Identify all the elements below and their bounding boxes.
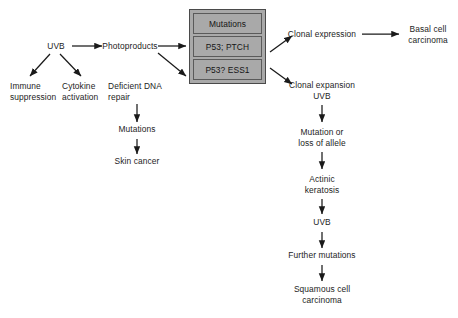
mutation-box-header: Mutations — [193, 13, 262, 34]
node-uvb-source: UVB — [47, 41, 65, 52]
node-cytokine-activation: Cytokine activation — [62, 81, 98, 102]
arrow-photoproducts-to-p53-ess1 — [158, 53, 186, 76]
node-skin-cancer: Skin cancer — [115, 156, 160, 167]
node-immune-suppression: Immune suppression — [10, 81, 56, 102]
arrow-uvb-to-cytokine-activation — [60, 54, 81, 76]
node-mutations-left: Mutations — [118, 124, 155, 135]
node-mutation-or-loss-of-allele: Mutation or loss of allele — [298, 127, 346, 148]
node-deficient-dna-repair: Deficient DNA repair — [108, 81, 162, 102]
mutation-box-row-p53-ptch: P53; PTCH — [193, 36, 262, 57]
node-clonal-expansion-uvb: Clonal expansion UVB — [289, 80, 355, 101]
node-squamous-cell-carcinoma: Squamous cell carcinoma — [294, 284, 350, 305]
node-photoproducts: Photoproducts — [102, 41, 157, 52]
node-basal-cell-carcinoma: Basal cell carcinoma — [408, 24, 448, 45]
arrow-uvb-to-immune-suppression — [30, 54, 50, 76]
diagram-canvas: UVB Photoproducts Immune suppression Cyt… — [0, 0, 458, 318]
node-further-mutations: Further mutations — [288, 250, 355, 261]
node-clonal-expression: Clonal expression — [288, 29, 356, 40]
mutation-box: Mutations P53; PTCH P53? ESS1 — [189, 9, 266, 84]
node-uvb-second: UVB — [313, 217, 331, 228]
node-actinic-keratosis: Actinic keratosis — [305, 174, 339, 195]
mutation-box-row-p53-ess1: P53? ESS1 — [193, 59, 262, 80]
